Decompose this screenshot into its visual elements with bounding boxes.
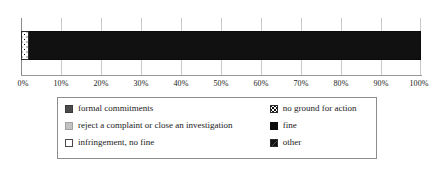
x-tick-50: 50% (214, 78, 229, 89)
legend-swatch-black-square-icon (270, 122, 278, 130)
stacked-bar (21, 31, 421, 60)
x-tick-10: 10% (54, 78, 69, 89)
x-tick-30: 30% (134, 78, 149, 89)
legend-row: infringement, no fine other (65, 137, 369, 154)
chart-legend: formal commitments no ground for action … (57, 97, 377, 159)
x-tick-90: 90% (374, 78, 389, 89)
legend-item-infringement-no-fine: infringement, no fine (65, 137, 270, 148)
legend-swatch-dotted-square-icon (270, 105, 278, 113)
legend-item-fine: fine (270, 120, 369, 131)
x-tick-20: 20% (94, 78, 109, 89)
x-axis-line (21, 75, 422, 76)
legend-swatch-light-gray-square-icon (65, 122, 73, 130)
bar-segment-fine (29, 31, 421, 60)
plot-area (21, 18, 421, 75)
legend-row: formal commitments no ground for action (65, 103, 369, 120)
legend-item-reject-complaint: reject a complaint or close an investiga… (65, 120, 270, 131)
legend-label-no-ground-for-action: no ground for action (283, 103, 357, 114)
legend-label-fine: fine (283, 120, 297, 131)
x-tick-60: 60% (254, 78, 269, 89)
legend-swatch-diagonal-split-square-icon (270, 139, 278, 147)
legend-swatch-white-square-icon (65, 139, 73, 147)
bar-segment-no-ground-for-action (21, 31, 29, 60)
legend-item-no-ground-for-action: no ground for action (270, 103, 369, 114)
legend-swatch-dark-gray-square-icon (65, 105, 73, 113)
x-tick-80: 80% (334, 78, 349, 89)
legend-item-formal-commitments: formal commitments (65, 103, 270, 114)
legend-label-formal-commitments: formal commitments (78, 103, 153, 114)
x-axis-tick-labels: 0% 10% 20% 30% 40% 50% 60% 70% 80% 90% 1… (0, 78, 444, 92)
x-tick-70: 70% (294, 78, 309, 89)
legend-item-other: other (270, 137, 369, 148)
x-tick-100: 100% (409, 78, 428, 89)
x-tick-40: 40% (174, 78, 189, 89)
legend-label-infringement-no-fine: infringement, no fine (78, 137, 154, 148)
x-tick-0: 0% (18, 78, 29, 89)
stacked-bar-chart: 0% 10% 20% 30% 40% 50% 60% 70% 80% 90% 1… (0, 0, 444, 170)
legend-row: reject a complaint or close an investiga… (65, 120, 369, 137)
legend-label-other: other (283, 137, 302, 148)
legend-label-reject-complaint: reject a complaint or close an investiga… (78, 120, 232, 131)
